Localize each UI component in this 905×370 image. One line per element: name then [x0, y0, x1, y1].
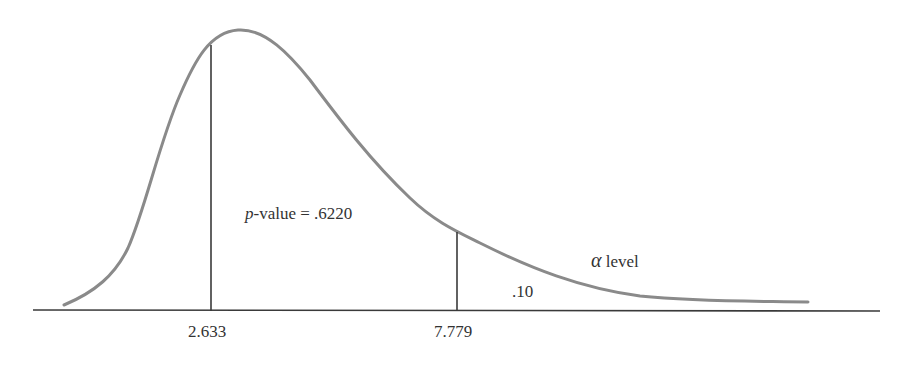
- p-value-text: -value = .6220: [254, 204, 353, 223]
- tick-label-7779: 7.779: [434, 322, 472, 342]
- tick-label-2633: 2.633: [188, 322, 226, 342]
- density-curve: [64, 30, 808, 305]
- alpha-level-word: level: [602, 252, 639, 271]
- alpha-value-label: .10: [512, 282, 533, 302]
- p-italic: p: [245, 204, 254, 223]
- alpha-level-label: α level: [591, 249, 639, 272]
- chi-square-distribution-chart: [0, 0, 905, 370]
- alpha-symbol: α: [591, 249, 602, 271]
- p-value-label: p-value = .6220: [245, 204, 352, 224]
